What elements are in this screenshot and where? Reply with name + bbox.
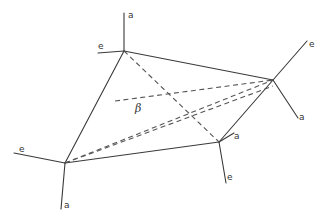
tetrahedron-diagram: a e e a a e e a β [0, 0, 324, 222]
dashed-top-lowerright [124, 51, 219, 142]
arm-lowerright-e [219, 142, 226, 183]
label-beta: β [134, 102, 141, 115]
label-left-a: a [64, 200, 70, 210]
dashed-left-right-upper [65, 80, 273, 163]
label-right-a: a [299, 112, 305, 122]
arm-right-a [273, 80, 298, 118]
arm-top-e [98, 51, 124, 53]
edge-top-right [124, 51, 273, 80]
label-lowerright-e: e [227, 172, 233, 182]
label-left-e: e [19, 144, 25, 154]
arm-right-e [273, 41, 307, 80]
edge-top-left [65, 51, 124, 163]
label-lowerright-a: a [234, 131, 240, 141]
label-top-a: a [128, 10, 134, 20]
arm-lowerright-a [219, 133, 234, 142]
dashed-left-right-lower [65, 86, 273, 163]
label-top-e: e [98, 41, 104, 51]
label-right-e: e [309, 39, 315, 49]
diagram-canvas: a e e a a e e a β [0, 0, 324, 222]
arm-left-e [14, 153, 65, 163]
dashed-beta-line [115, 80, 273, 101]
edge-left-lowerright [65, 142, 219, 163]
